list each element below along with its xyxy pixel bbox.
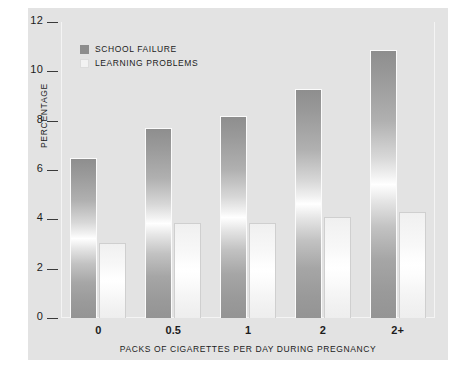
bar-chart: 0 2 4 6 8 10 12 PERCENTAGE bbox=[0, 0, 459, 374]
bar-school-failure-1 bbox=[145, 128, 172, 318]
bar-school-failure-0 bbox=[70, 158, 97, 318]
y-tick-mark-4 bbox=[47, 219, 58, 220]
x-axis-tick-labels: 0 0.5 1 2 2+ bbox=[61, 324, 435, 336]
bar-learning-problems-0 bbox=[99, 243, 126, 318]
bar-learning-problems-2 bbox=[249, 223, 276, 318]
y-tick-label-6: 6 bbox=[37, 162, 43, 174]
y-tick-mark-6 bbox=[47, 170, 58, 171]
bar-learning-problems-4 bbox=[399, 212, 426, 318]
bar-group-0 bbox=[61, 22, 136, 318]
x-tick-label-1: 0.5 bbox=[136, 324, 211, 336]
bar-learning-problems-3 bbox=[324, 217, 351, 318]
x-tick-label-4: 2+ bbox=[360, 324, 435, 336]
y-tick-mark-0 bbox=[47, 318, 58, 319]
bar-groups bbox=[61, 22, 435, 318]
y-tick-mark-12 bbox=[47, 22, 58, 23]
y-tick-label-2: 2 bbox=[37, 261, 43, 273]
x-tick-label-2: 1 bbox=[211, 324, 286, 336]
y-tick-mark-10 bbox=[47, 71, 58, 72]
y-axis-title: PERCENTAGE bbox=[39, 83, 49, 148]
y-tick-label-12: 12 bbox=[30, 14, 43, 26]
bar-school-failure-3 bbox=[295, 89, 322, 318]
bar-school-failure-4 bbox=[370, 50, 397, 318]
y-axis: 0 2 4 6 8 10 12 bbox=[0, 0, 61, 374]
y-tick-label-10: 10 bbox=[30, 63, 43, 75]
x-tick-label-0: 0 bbox=[61, 324, 136, 336]
x-tick-label-3: 2 bbox=[285, 324, 360, 336]
x-axis-title: PACKS OF CIGARETTES PER DAY DURING PREGN… bbox=[61, 344, 435, 354]
y-tick-label-4: 4 bbox=[37, 211, 43, 223]
bar-learning-problems-1 bbox=[174, 223, 201, 318]
bar-group-2 bbox=[211, 22, 286, 318]
bar-group-4 bbox=[360, 22, 435, 318]
bar-group-1 bbox=[136, 22, 211, 318]
y-tick-label-0: 0 bbox=[37, 310, 43, 322]
bar-school-failure-2 bbox=[220, 116, 247, 318]
bar-group-3 bbox=[285, 22, 360, 318]
y-tick-mark-2 bbox=[47, 269, 58, 270]
